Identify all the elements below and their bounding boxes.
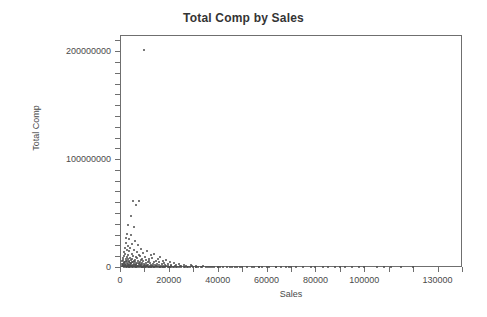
x-tick-label: 130000	[423, 275, 453, 285]
x-tick-mark	[462, 267, 463, 272]
y-tick-mark	[115, 213, 120, 214]
x-tick-mark	[291, 267, 292, 272]
x-tick-mark	[120, 267, 121, 272]
x-tick-label: 100000	[349, 275, 379, 285]
y-tick-mark	[115, 73, 120, 74]
x-tick-mark	[218, 267, 219, 272]
y-tick-mark	[115, 170, 120, 171]
x-tick-mark	[438, 267, 439, 272]
y-tick-mark	[115, 40, 120, 41]
y-tick-mark	[115, 159, 120, 160]
x-tick-mark	[364, 267, 365, 272]
y-tick-mark	[115, 127, 120, 128]
x-tick-mark	[413, 267, 414, 272]
scatter-chart: Total Comp by Sales 0100000000200000000 …	[0, 0, 487, 317]
y-tick-mark	[115, 181, 120, 182]
y-tick-mark	[115, 94, 120, 95]
chart-title: Total Comp by Sales	[0, 11, 487, 25]
x-tick-mark	[315, 267, 316, 272]
y-tick-label: 0	[10, 262, 111, 272]
x-tick-label: 20000	[156, 275, 181, 285]
x-tick-mark	[389, 267, 390, 272]
y-tick-mark	[115, 62, 120, 63]
x-tick-label: 80000	[303, 275, 328, 285]
y-tick-mark	[115, 51, 120, 52]
x-axis-title: Sales	[120, 289, 462, 299]
y-tick-mark	[115, 191, 120, 192]
x-tick-mark	[169, 267, 170, 272]
x-tick-label: 60000	[254, 275, 279, 285]
x-tick-mark	[340, 267, 341, 272]
y-tick-label: 100000000	[10, 154, 111, 164]
y-tick-mark	[115, 235, 120, 236]
plot-area	[120, 35, 462, 267]
x-tick-mark	[144, 267, 145, 272]
y-tick-mark	[115, 84, 120, 85]
y-tick-label: 200000000	[10, 46, 111, 56]
y-tick-mark	[115, 116, 120, 117]
y-tick-mark	[115, 245, 120, 246]
y-axis-title: Total Comp	[31, 88, 41, 168]
y-tick-mark	[115, 105, 120, 106]
y-tick-mark	[115, 224, 120, 225]
y-tick-mark	[115, 148, 120, 149]
y-tick-mark	[115, 138, 120, 139]
x-tick-label: 0	[117, 275, 122, 285]
x-tick-label: 40000	[205, 275, 230, 285]
y-tick-mark	[115, 256, 120, 257]
x-tick-mark	[193, 267, 194, 272]
y-tick-mark	[115, 202, 120, 203]
x-tick-mark	[267, 267, 268, 272]
x-tick-mark	[242, 267, 243, 272]
